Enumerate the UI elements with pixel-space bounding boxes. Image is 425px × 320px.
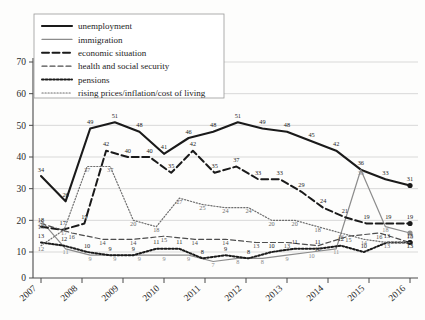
point-value-label: 37 bbox=[84, 166, 90, 173]
point-value-label: 13 bbox=[384, 242, 390, 249]
point-value-label: 29 bbox=[298, 181, 304, 188]
x-tick-label: 2013 bbox=[264, 283, 285, 303]
legend-label: economic situation bbox=[78, 48, 147, 58]
x-tick-label: 2010 bbox=[141, 283, 162, 303]
point-value-label: 10 bbox=[268, 242, 274, 249]
y-tick-label: 30 bbox=[17, 184, 27, 194]
point-value-label: 8 bbox=[236, 258, 239, 265]
point-value-label: 16 bbox=[338, 233, 344, 240]
y-tick-label: 50 bbox=[17, 121, 27, 131]
x-tick-label: 2015 bbox=[346, 283, 367, 303]
point-value-label: 33 bbox=[255, 169, 261, 176]
point-value-label: 51 bbox=[235, 112, 241, 119]
point-value-label: 9 bbox=[285, 255, 288, 262]
point-value-label: 8 bbox=[261, 258, 264, 265]
point-value-label: 33 bbox=[277, 169, 283, 176]
point-value-label: 41 bbox=[161, 143, 167, 150]
point-value-label: 24 bbox=[245, 207, 252, 214]
point-value-label: 17 bbox=[61, 229, 67, 236]
point-value-label: 17 bbox=[60, 219, 66, 226]
point-value-label: 9 bbox=[132, 245, 135, 252]
y-tick-label-zero: 0 bbox=[21, 273, 26, 283]
point-value-label: 8 bbox=[201, 248, 204, 255]
point-value-label: 9 bbox=[224, 245, 227, 252]
point-value-label: 26 bbox=[62, 191, 68, 198]
point-value-label: 12 bbox=[38, 245, 44, 252]
point-value-label: 42 bbox=[190, 140, 196, 147]
series-end-marker bbox=[407, 183, 412, 188]
point-value-label: 16 bbox=[69, 233, 75, 240]
point-value-label: 36 bbox=[358, 159, 364, 166]
point-value-label: 33 bbox=[382, 169, 388, 176]
x-tick-label: 2016 bbox=[387, 283, 408, 303]
y-axis: 102030405060700 bbox=[17, 57, 34, 283]
point-value-label: 40 bbox=[146, 147, 152, 154]
point-value-label: 11 bbox=[333, 248, 339, 255]
x-tick-label: 2011 bbox=[182, 283, 203, 303]
point-value-label: 14 bbox=[99, 239, 106, 246]
point-value-label: 35 bbox=[211, 162, 217, 169]
point-value-label: 36 bbox=[358, 169, 364, 176]
legend-label: pensions bbox=[78, 75, 110, 85]
point-value-label: 19 bbox=[38, 223, 44, 230]
point-value-label: 37 bbox=[233, 156, 239, 163]
series-end-marker bbox=[407, 221, 412, 226]
point-value-label: 14 bbox=[192, 239, 199, 246]
legend-label: health and social security bbox=[78, 61, 170, 71]
x-tick-label: 2009 bbox=[100, 283, 121, 303]
point-value-label: 45 bbox=[308, 131, 314, 138]
point-value-label: 13 bbox=[284, 242, 290, 249]
point-value-label: 19 bbox=[385, 213, 391, 220]
point-value-label: 37 bbox=[107, 166, 113, 173]
point-value-label: 27 bbox=[176, 198, 182, 205]
x-tick-label: 2008 bbox=[59, 283, 80, 303]
point-value-label: 9 bbox=[89, 255, 92, 262]
point-value-label: 51 bbox=[112, 112, 118, 119]
point-value-label: 40 bbox=[125, 147, 131, 154]
point-value-label: 19 bbox=[363, 213, 369, 220]
point-value-label: 11 bbox=[153, 238, 159, 245]
point-value-label: 9 bbox=[162, 255, 165, 262]
point-value-label: 10 bbox=[84, 242, 90, 249]
point-value-label: 49 bbox=[259, 118, 265, 125]
x-tick-label: 2014 bbox=[305, 283, 326, 303]
point-value-label: 48 bbox=[284, 121, 290, 128]
point-value-label: 9 bbox=[138, 255, 141, 262]
point-value-label: 13 bbox=[38, 232, 44, 239]
point-value-label: 16 bbox=[376, 233, 382, 240]
point-value-label: 11 bbox=[315, 238, 321, 245]
point-value-label: 12 bbox=[315, 245, 321, 252]
point-value-label: 11 bbox=[176, 238, 182, 245]
point-value-label: 24 bbox=[320, 197, 327, 204]
point-value-label: 18 bbox=[153, 226, 159, 233]
x-tick-label: 2012 bbox=[223, 283, 244, 303]
point-value-label: 9 bbox=[113, 255, 116, 262]
point-value-label: 11 bbox=[292, 238, 298, 245]
point-value-label: 15 bbox=[161, 236, 167, 243]
y-tick-label: 10 bbox=[17, 247, 27, 257]
y-tick-label: 60 bbox=[17, 89, 27, 99]
point-value-label: 19 bbox=[81, 213, 87, 220]
point-value-label: 13 bbox=[384, 232, 390, 239]
point-value-label: 19 bbox=[407, 213, 413, 220]
point-value-label: 42 bbox=[333, 140, 339, 147]
point-value-label: 25 bbox=[199, 204, 205, 211]
series-line bbox=[41, 167, 410, 246]
legend-label: unemployment bbox=[78, 21, 132, 31]
point-value-label: 18 bbox=[315, 226, 321, 233]
point-value-label: 24 bbox=[222, 207, 229, 214]
point-value-label: 42 bbox=[103, 140, 109, 147]
legend-label: rising prices/inflation/cost of living bbox=[78, 88, 206, 98]
point-value-label: 10 bbox=[308, 252, 314, 259]
line-chart: 1020304050607002007200820092010201120122… bbox=[0, 0, 425, 320]
point-value-label: 48 bbox=[210, 121, 216, 128]
point-value-label: 34 bbox=[38, 166, 45, 173]
point-value-label: 15 bbox=[345, 236, 351, 243]
y-tick-label: 20 bbox=[17, 216, 27, 226]
chart-container: 1020304050607002007200820092010201120122… bbox=[0, 0, 425, 320]
point-value-label: 13 bbox=[407, 232, 413, 239]
point-value-label: 7 bbox=[212, 261, 215, 268]
point-value-label: 46 bbox=[185, 128, 191, 135]
point-value-label: 49 bbox=[87, 118, 93, 125]
y-tick-label: 70 bbox=[17, 57, 27, 67]
